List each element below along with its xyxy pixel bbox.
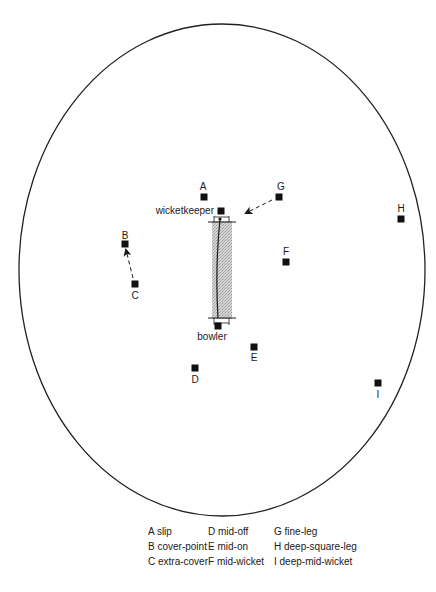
legend-item-e: E mid-on <box>208 541 274 553</box>
fielder-marker-icon <box>218 208 225 215</box>
fielder-marker-icon <box>283 259 290 266</box>
fielder-i: I <box>375 380 382 401</box>
arrow-c-to-b <box>126 250 133 278</box>
legend: A slip D mid-off G fine-leg B cover-poin… <box>148 526 384 568</box>
ball-icon <box>218 217 221 220</box>
fielder-label: I <box>377 389 380 400</box>
fielder-keeper: wicketkeeper <box>155 205 225 216</box>
fielder-label: C <box>131 290 138 301</box>
fielder-label: bowler <box>197 331 227 342</box>
fielder-b: B <box>122 230 129 248</box>
fielder-a: A <box>200 181 208 201</box>
fielder-label: B <box>122 230 129 241</box>
fielder-bowler: bowler <box>197 323 227 343</box>
fielder-c: C <box>131 281 138 302</box>
legend-item-f: F mid-wicket <box>208 556 274 568</box>
pitch <box>208 216 236 325</box>
fielder-label: A <box>200 181 207 192</box>
fielder-marker-icon <box>375 380 382 387</box>
cricket-field-diagram: AwicketkeeperGBCFHbowlerEDI <box>0 0 436 592</box>
fielder-marker-icon <box>132 281 139 288</box>
fielder-d: D <box>191 365 198 386</box>
legend-item-b: B cover-point <box>148 541 208 553</box>
arrow-g-to-keeper <box>246 200 272 213</box>
fielder-marker-icon <box>215 323 222 330</box>
fielder-label: H <box>397 203 404 214</box>
legend-item-g: G fine-leg <box>274 526 384 538</box>
fielder-label: wicketkeeper <box>155 205 215 216</box>
fielder-marker-icon <box>201 194 208 201</box>
legend-item-d: D mid-off <box>208 526 274 538</box>
fielder-g: G <box>276 181 286 201</box>
fielder-f: F <box>283 246 290 266</box>
fielder-marker-icon <box>398 216 405 223</box>
fielder-marker-icon <box>122 241 129 248</box>
fielder-e: E <box>251 344 258 364</box>
fielder-h: H <box>397 203 404 223</box>
pitch-strip <box>212 221 232 319</box>
legend-item-i: I deep-mid-wicket <box>274 556 384 568</box>
fielder-label: F <box>283 246 289 257</box>
fielder-marker-icon <box>276 194 283 201</box>
legend-item-a: A slip <box>148 526 208 538</box>
fielder-label: E <box>251 352 258 363</box>
fielders: AwicketkeeperGBCFHbowlerEDI <box>122 181 405 400</box>
legend-item-c: C extra-cover <box>148 556 208 568</box>
fielder-marker-icon <box>192 365 199 372</box>
fielder-marker-icon <box>251 344 258 351</box>
fielder-label: D <box>191 374 198 385</box>
fielder-label: G <box>277 181 285 192</box>
legend-item-h: H deep-square-leg <box>274 541 384 553</box>
